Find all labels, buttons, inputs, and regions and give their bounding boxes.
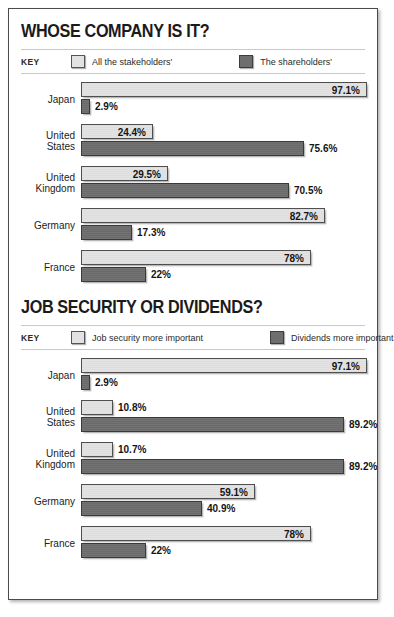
- bar-dark: [81, 501, 202, 516]
- bar-chart-job-security: Japan 97.1% 2.9%: [21, 350, 365, 564]
- legend-swatch-light-icon: [71, 331, 85, 344]
- bar-group-dark: 89.2%: [81, 459, 377, 474]
- bar-group-dark: 40.9%: [81, 501, 235, 516]
- row-bars: 10.7% 89.2%: [81, 438, 365, 480]
- bar-group-dark: 2.9%: [81, 99, 118, 114]
- chart-row: France 78% 22%: [21, 522, 365, 564]
- row-country-label: Germany: [21, 496, 81, 507]
- bar-group-light: 29.5%: [81, 166, 168, 181]
- legend-item-dividends: Dividends more important: [270, 331, 394, 344]
- chart-card: WHOSE COMPANY IS IT? KEY All the stakeho…: [8, 8, 378, 600]
- row-bars: 82.7% 17.3%: [81, 204, 365, 246]
- legend-item-label: All the stakeholders': [92, 57, 172, 67]
- bar-group-dark: 17.3%: [81, 225, 165, 240]
- bar-dark: [81, 459, 344, 474]
- legend-item-job-security: Job security more important: [71, 331, 203, 344]
- chart-row: Japan 97.1% 2.9%: [21, 354, 365, 396]
- bar-value-label: 10.8%: [118, 400, 146, 415]
- bar-value-label: 22%: [151, 267, 171, 282]
- bar-value-label: 78%: [284, 251, 304, 266]
- bar-value-label: 97.1%: [332, 359, 360, 374]
- chart-row: France 78% 22%: [21, 246, 365, 288]
- bar-group-dark: 89.2%: [81, 417, 377, 432]
- bar-group-dark: 2.9%: [81, 375, 118, 390]
- bar-value-label: 22%: [151, 543, 171, 558]
- row-country-label: France: [21, 262, 81, 273]
- bar-value-label: 59.1%: [220, 485, 248, 500]
- bar-value-label: 29.5%: [133, 167, 161, 182]
- bar-value-label: 78%: [284, 527, 304, 542]
- bar-value-label: 70.5%: [294, 183, 322, 198]
- bar-value-label: 89.2%: [349, 459, 377, 474]
- legend-item-label: Dividends more important: [291, 333, 394, 343]
- card-inner: WHOSE COMPANY IS IT? KEY All the stakeho…: [9, 9, 377, 599]
- bar-value-label: 40.9%: [207, 501, 235, 516]
- bar-group-light: 59.1%: [81, 484, 255, 499]
- bar-light: [81, 400, 113, 415]
- row-bars: 97.1% 2.9%: [81, 354, 365, 396]
- bar-group-dark: 75.6%: [81, 141, 337, 156]
- bar-light: 78%: [81, 250, 311, 265]
- bar-group-light: 82.7%: [81, 208, 325, 223]
- bar-group-light: 97.1%: [81, 82, 367, 97]
- bar-group-light: 97.1%: [81, 358, 367, 373]
- row-country-label: United States: [21, 130, 81, 152]
- row-country-label: Japan: [21, 370, 81, 381]
- row-country-label: Germany: [21, 220, 81, 231]
- page-title: JOB SECURITY OR DIVIDENDS?: [21, 288, 331, 316]
- bar-dark: [81, 267, 146, 282]
- bar-light: 29.5%: [81, 166, 168, 181]
- row-country-label: United Kingdom: [21, 448, 81, 470]
- legend-item-label: Job security more important: [92, 333, 203, 343]
- bar-dark: [81, 183, 289, 198]
- row-country-label: United States: [21, 406, 81, 428]
- legend-item-shareholders: The shareholders': [239, 55, 332, 68]
- page-title: WHOSE COMPANY IS IT?: [21, 9, 331, 40]
- bar-value-label: 82.7%: [290, 209, 318, 224]
- bar-group-light: 10.8%: [81, 400, 146, 415]
- row-country-label: United Kingdom: [21, 172, 81, 194]
- legend-row: KEY All the stakeholders' The shareholde…: [21, 50, 365, 73]
- bar-group-light: 10.7%: [81, 442, 146, 457]
- bar-value-label: 75.6%: [309, 141, 337, 156]
- bar-value-label: 97.1%: [332, 83, 360, 98]
- bar-dark: [81, 225, 132, 240]
- bar-chart-whose-company: Japan 97.1% 2.9%: [21, 74, 365, 288]
- bar-light: 97.1%: [81, 358, 367, 373]
- legend-row: KEY Job security more important Dividend…: [21, 326, 365, 349]
- legend-key-label: KEY: [21, 57, 71, 67]
- legend-item-label: The shareholders': [260, 57, 332, 67]
- chart-panel-job-security: JOB SECURITY OR DIVIDENDS? KEY Job secur…: [21, 288, 365, 564]
- bar-value-label: 2.9%: [95, 99, 118, 114]
- bar-group-light: 78%: [81, 250, 311, 265]
- row-bars: 97.1% 2.9%: [81, 78, 365, 120]
- chart-row: Japan 97.1% 2.9%: [21, 78, 365, 120]
- row-bars: 78% 22%: [81, 522, 365, 564]
- bar-value-label: 10.7%: [118, 442, 146, 457]
- bar-dark: [81, 543, 146, 558]
- bar-group-dark: 22%: [81, 267, 171, 282]
- row-bars: 29.5% 70.5%: [81, 162, 365, 204]
- bar-value-label: 89.2%: [349, 417, 377, 432]
- bar-group-light: 24.4%: [81, 124, 153, 139]
- chart-row: Germany 59.1% 40.9%: [21, 480, 365, 522]
- bar-group-dark: 22%: [81, 543, 171, 558]
- chart-panel-whose-company: WHOSE COMPANY IS IT? KEY All the stakeho…: [21, 9, 365, 288]
- legend-swatch-dark-icon: [270, 331, 284, 344]
- chart-row: Germany 82.7% 17.3%: [21, 204, 365, 246]
- bar-group-light: 78%: [81, 526, 311, 541]
- row-bars: 59.1% 40.9%: [81, 480, 365, 522]
- row-bars: 78% 22%: [81, 246, 365, 288]
- bar-dark: [81, 417, 344, 432]
- bar-light: 59.1%: [81, 484, 255, 499]
- bar-dark: [81, 375, 90, 390]
- bar-light: 24.4%: [81, 124, 153, 139]
- chart-row: United States 24.4% 75.6%: [21, 120, 365, 162]
- chart-row: United Kingdom 29.5% 70.5%: [21, 162, 365, 204]
- chart-row: United Kingdom 10.7% 89.2%: [21, 438, 365, 480]
- bar-value-label: 17.3%: [137, 225, 165, 240]
- bar-value-label: 2.9%: [95, 375, 118, 390]
- legend-swatch-light-icon: [71, 55, 85, 68]
- row-bars: 10.8% 89.2%: [81, 396, 365, 438]
- bar-dark: [81, 141, 304, 156]
